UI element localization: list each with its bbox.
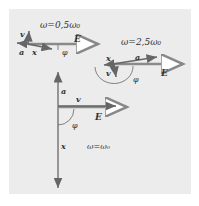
- label-v: v: [76, 94, 81, 104]
- label-e: E: [94, 112, 102, 122]
- acceleration-vector: [17, 43, 28, 44]
- diagram-high-frequency: ω=2,5ω₀ x a v E φ: [95, 37, 183, 84]
- diagram-low-frequency: ω=0,5ω₀ v E a x φ: [17, 20, 98, 57]
- label-a: a: [61, 86, 66, 96]
- label-x: x: [60, 141, 66, 151]
- phasor-diagrams: ω=0,5ω₀ v E a x φ ω=2,5ω₀: [0, 0, 199, 206]
- label-x: x: [31, 47, 37, 57]
- label-x: x: [105, 53, 111, 63]
- label-a: a: [135, 52, 140, 62]
- omega-label-resonance: ω=ω₀: [87, 142, 111, 151]
- omega-label-low: ω=0,5ω₀: [40, 20, 81, 30]
- label-e: E: [160, 68, 168, 78]
- displacement-vector: [104, 64, 113, 65]
- label-a: a: [19, 47, 24, 57]
- velocity-vector: [114, 64, 116, 77]
- label-v: v: [106, 68, 111, 78]
- label-v: v: [20, 29, 25, 39]
- label-e: E: [73, 34, 81, 44]
- label-phi: φ: [133, 75, 139, 84]
- velocity-vector: [28, 31, 29, 44]
- omega-label-high: ω=2,5ω₀: [121, 37, 162, 47]
- label-phi: φ: [72, 121, 78, 130]
- diagram-resonance: a v E φ x ω=ω₀: [58, 72, 127, 188]
- label-phi: φ: [62, 48, 68, 57]
- figure: ω=0,5ω₀ v E a x φ ω=2,5ω₀: [0, 0, 199, 206]
